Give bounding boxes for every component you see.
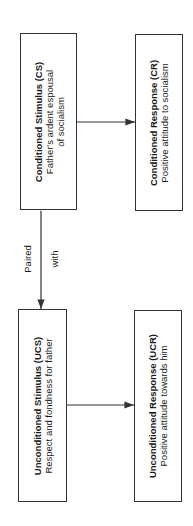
ucs-text: Unconditioned Stimulus (UCS) Respect and… [32,336,54,474]
paired-label-1: Paired [22,245,33,272]
paired-label-2: with [49,245,60,272]
ucs-desc: Respect and fondness for father [43,336,54,474]
cs-desc-1: Father's ardent espousal [43,61,54,181]
cr-desc: Positive attitude to socialism [159,59,170,185]
cs-desc-2: of socialism [54,61,65,181]
ucr-text: Unconditioned Response (UCR) Positive at… [147,334,169,478]
ucr-desc: Positive attitude towards him [158,334,169,478]
cr-title: Conditioned Response (CR) [148,59,159,185]
paired-with-label: Paired with [30,245,52,272]
ucs-title: Unconditioned Stimulus (UCS) [32,336,43,474]
cs-title: Conditioned Stimulus (CS) [32,61,43,181]
ucr-box: Unconditioned Response (UCR) Positive at… [134,310,182,502]
cs-text: Conditioned Stimulus (CS) Father's arden… [32,61,65,181]
ucs-box: Unconditioned Stimulus (UCS) Respect and… [18,309,67,502]
ucr-title: Unconditioned Response (UCR) [147,334,158,478]
cs-box: Conditioned Stimulus (CS) Father's arden… [20,33,77,210]
cr-box: Conditioned Response (CR) Positive attit… [135,34,183,211]
cr-text: Conditioned Response (CR) Positive attit… [148,59,170,185]
